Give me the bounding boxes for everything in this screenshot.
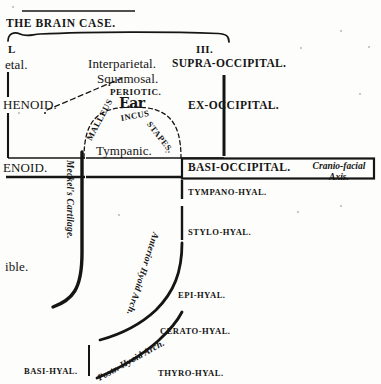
squamosal-leader-dot [44, 112, 46, 114]
running-head: THE BRAIN CASE. [6, 18, 116, 30]
scan-speck [300, 47, 302, 49]
label-cerato-hyal: CERATO-HYAL. [160, 327, 230, 336]
label-parietal-cut: etal. [5, 58, 28, 71]
scan-speck [368, 46, 370, 48]
label-epi-hyal: EPI-HYAL. [178, 291, 225, 300]
scan-speck [18, 112, 20, 114]
label-interparietal: Interparietal. [88, 57, 156, 70]
label-sphenoid-lower-cut: ENOID. [3, 161, 47, 174]
label-tympanic: Tympanic. [96, 144, 152, 157]
scan-speck [340, 205, 342, 207]
label-mandible-cut: ible. [5, 260, 28, 273]
scan-speck [340, 30, 342, 32]
scan-speck [12, 6, 14, 8]
diagram-page: THE BRAIN CASE. L III. etal. HENOID. ENO… [0, 0, 381, 384]
axis-note-line1: Cranio-facial [303, 161, 375, 172]
label-stylo-hyal: STYLO-HYAL. [188, 228, 251, 237]
label-ear: Ear [119, 96, 145, 110]
scan-speck [359, 93, 361, 95]
label-meckels-cartilage: Meckel's Cartilage. [65, 160, 74, 239]
label-thyro-hyal: THYRO-HYAL. [158, 369, 224, 378]
scan-speck [118, 214, 120, 216]
column-head-right: III. [196, 44, 213, 55]
label-squamosal: Squamosal. [97, 72, 158, 85]
label-tympano-hyal: TYMPANO-HYAL. [188, 188, 267, 197]
label-sphenoid-upper-cut: HENOID. [3, 98, 57, 111]
label-basi-hyal: BASI-HYAL. [24, 367, 78, 376]
column-head-left: L [8, 44, 16, 55]
label-ex-occipital: EX-OCCIPITAL. [188, 100, 279, 112]
scan-speck [297, 211, 299, 213]
scan-speck [165, 151, 167, 153]
axis-note-line2: Axis. [303, 172, 375, 183]
label-basi-occipital: BASI-OCCIPITAL. [188, 162, 290, 174]
header-brace [8, 32, 229, 42]
label-supra-occipital: SUPRA-OCCIPITAL. [172, 58, 286, 70]
